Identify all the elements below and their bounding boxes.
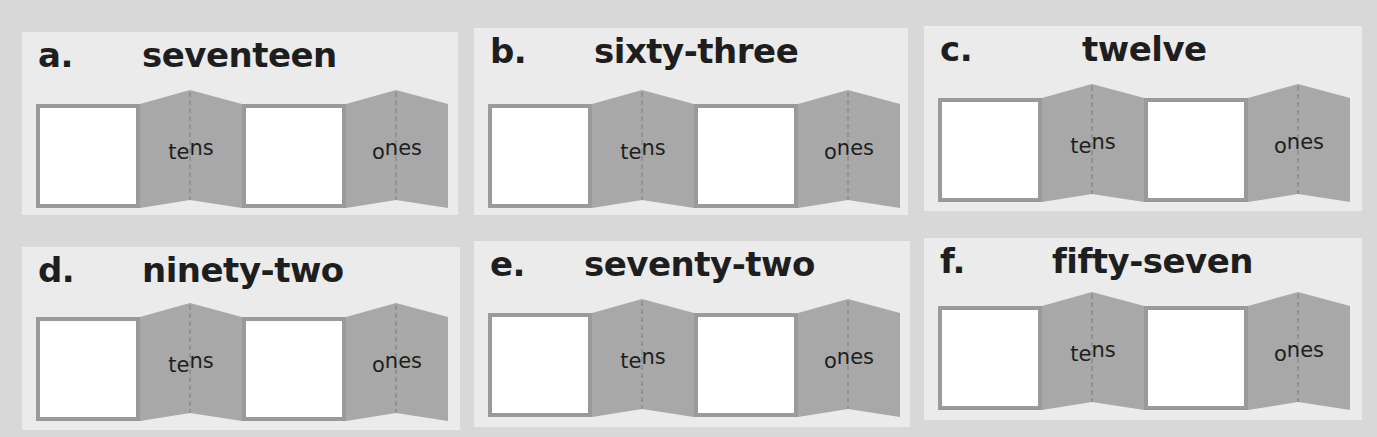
number-word: twelve <box>1082 32 1207 66</box>
place-value-strip: tens ones <box>938 292 1350 414</box>
ones-fold-label: ones <box>798 90 900 212</box>
ones-answer-box[interactable] <box>242 104 346 208</box>
ones-answer-box[interactable] <box>694 104 798 208</box>
tens-answer-box[interactable] <box>36 104 140 208</box>
problem-letter: d. <box>38 253 74 287</box>
tens-fold-label: tens <box>592 299 694 421</box>
ones-fold-label: ones <box>1248 84 1350 206</box>
ones-fold-label: ones <box>346 303 448 425</box>
tens-label: tens <box>1070 130 1115 158</box>
ones-label: ones <box>1274 338 1324 366</box>
place-value-strip: tens ones <box>488 299 900 421</box>
place-value-strip: tens ones <box>36 90 448 212</box>
ones-label: ones <box>824 345 874 373</box>
ones-answer-box[interactable] <box>1144 98 1248 202</box>
ones-answer-box[interactable] <box>242 317 346 421</box>
problem-letter: e. <box>490 247 525 281</box>
tens-label: tens <box>168 136 213 164</box>
problem-letter: b. <box>490 34 526 68</box>
tens-answer-box[interactable] <box>488 104 592 208</box>
problem-panel-d: d. ninety-two tens ones <box>22 247 460 430</box>
tens-answer-box[interactable] <box>938 306 1042 410</box>
number-word: ninety-two <box>142 253 344 287</box>
tens-answer-box[interactable] <box>488 313 592 417</box>
ones-label: ones <box>372 136 422 164</box>
ones-label: ones <box>1274 130 1324 158</box>
ones-fold-label: ones <box>798 299 900 421</box>
problem-letter: f. <box>940 244 965 278</box>
tens-label: tens <box>1070 338 1115 366</box>
place-value-strip: tens ones <box>488 90 900 212</box>
problem-panel-e: e. seventy-two tens ones <box>474 241 910 427</box>
ones-fold-label: ones <box>1248 292 1350 414</box>
place-value-strip: tens ones <box>938 84 1350 206</box>
tens-fold-label: tens <box>140 90 242 212</box>
tens-fold-label: tens <box>1042 84 1144 206</box>
place-value-strip: tens ones <box>36 303 448 425</box>
tens-label: tens <box>168 349 213 377</box>
problem-panel-b: b. sixty-three tens ones <box>474 28 908 215</box>
problem-panel-c: c. twelve tens ones <box>924 26 1362 211</box>
ones-label: ones <box>824 136 874 164</box>
tens-fold-label: tens <box>140 303 242 425</box>
number-word: sixty-three <box>594 34 798 68</box>
tens-label: tens <box>620 136 665 164</box>
ones-fold-label: ones <box>346 90 448 212</box>
tens-fold-label: tens <box>1042 292 1144 414</box>
problem-panel-a: a. seventeen tens ones <box>22 32 458 215</box>
problem-panel-f: f. fifty-seven tens ones <box>924 238 1362 420</box>
tens-label: tens <box>620 345 665 373</box>
ones-answer-box[interactable] <box>694 313 798 417</box>
ones-label: ones <box>372 349 422 377</box>
problem-letter: a. <box>38 38 73 72</box>
number-word: seventy-two <box>584 247 815 281</box>
tens-answer-box[interactable] <box>938 98 1042 202</box>
number-word: seventeen <box>142 38 337 72</box>
tens-answer-box[interactable] <box>36 317 140 421</box>
number-word: fifty-seven <box>1052 244 1253 278</box>
tens-fold-label: tens <box>592 90 694 212</box>
ones-answer-box[interactable] <box>1144 306 1248 410</box>
problem-letter: c. <box>940 32 972 66</box>
